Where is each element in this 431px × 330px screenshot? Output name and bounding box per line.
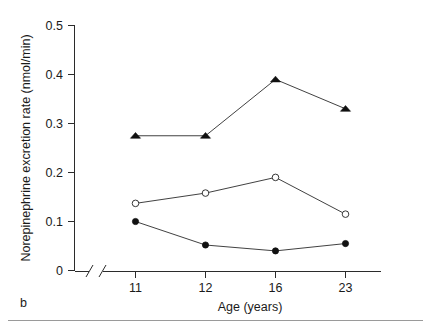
y-tick-label-3: 0.3 bbox=[46, 117, 63, 131]
data-point-open-circle-series-16 bbox=[272, 174, 279, 181]
y-axis-title: Norepinephrine excretion rate (nmol/min) bbox=[19, 34, 33, 261]
series-line-filled-triangle-series bbox=[136, 79, 346, 135]
line-chart: 0.5 0.4 0.3 0.2 0.1 0 11 12 16 23 Age (y… bbox=[0, 0, 431, 330]
data-point-open-circle-series-12 bbox=[202, 190, 209, 197]
y-tick-label-1: 0.1 bbox=[46, 215, 63, 229]
series-line-open-circle-series bbox=[136, 177, 346, 214]
y-tick-label-0: 0 bbox=[56, 264, 63, 278]
y-tick-label-4: 0.4 bbox=[46, 68, 63, 82]
series-line-filled-circle-series bbox=[136, 222, 346, 251]
data-point-filled-triangle-series-16 bbox=[271, 76, 281, 82]
series-markers-group bbox=[131, 76, 351, 254]
data-point-filled-circle-series-23 bbox=[342, 240, 348, 246]
y-tick-label-2: 0.2 bbox=[46, 166, 63, 180]
y-tick-label-5: 0.5 bbox=[46, 19, 63, 33]
x-tick-label-3: 23 bbox=[339, 281, 353, 295]
x-tick-label-1: 12 bbox=[199, 281, 213, 295]
data-point-filled-circle-series-11 bbox=[132, 218, 138, 224]
data-point-filled-circle-series-12 bbox=[202, 242, 208, 248]
series-lines-group bbox=[136, 79, 346, 251]
footer-divider bbox=[8, 320, 423, 321]
data-point-filled-circle-series-16 bbox=[272, 248, 278, 254]
x-axis-title: Age (years) bbox=[218, 300, 283, 314]
figure-panel-b: 0.5 0.4 0.3 0.2 0.1 0 11 12 16 23 Age (y… bbox=[0, 0, 431, 330]
x-tick-label-2: 16 bbox=[269, 281, 283, 295]
x-tick-label-0: 11 bbox=[129, 281, 142, 295]
data-point-open-circle-series-11 bbox=[132, 200, 139, 207]
panel-label: b bbox=[20, 296, 27, 310]
data-point-filled-triangle-series-23 bbox=[341, 106, 351, 112]
data-point-open-circle-series-23 bbox=[342, 211, 349, 218]
